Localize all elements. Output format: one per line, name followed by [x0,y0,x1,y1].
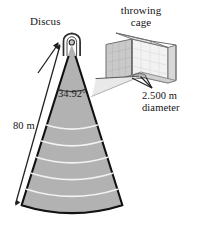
discus-throwing-sector-diagram: Discus throwingcage 34.92° 80 m 2.500 md… [0,0,200,227]
throwing-cage-label-line1: throwing [121,4,162,16]
throwing-cage-label: throwingcage [111,4,171,29]
throw-distance-label: 80 m [13,120,35,131]
circle-diameter-label: 2.500 mdiameter [142,90,180,115]
throwing-cage-3d [92,33,177,97]
sector-angle-label: 34.92° [58,88,86,99]
circle-diameter-label-line2: diameter [142,102,180,114]
cage-right-panel [168,45,176,83]
apex-cage-icon-group [64,33,81,56]
discus-label: Discus [30,16,61,28]
throwing-cage-label-line2: cage [111,16,171,28]
discus-leader-line [38,44,59,74]
discus-leader-arrow [38,42,59,73]
throwing-circle-icon [69,40,74,45]
circle-diameter-label-line1: 2.500 m [142,90,177,101]
